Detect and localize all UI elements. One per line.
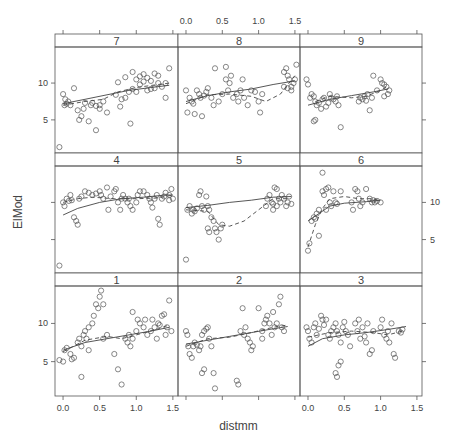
data-point (269, 332, 274, 337)
panel-5: 5 (178, 153, 300, 273)
data-point (212, 386, 217, 391)
data-point (305, 82, 310, 87)
data-point (362, 334, 367, 339)
data-point (348, 344, 353, 349)
data-point (319, 106, 324, 111)
data-point (245, 103, 250, 108)
x-tick-label-top: 0.0 (180, 16, 193, 26)
data-point (99, 288, 104, 293)
strip-label: 3 (358, 274, 364, 286)
y-tick-label-right: 5 (430, 235, 435, 245)
data-point (169, 329, 174, 334)
data-point (91, 313, 96, 318)
data-point (97, 106, 102, 111)
strip-label: 4 (113, 154, 119, 166)
data-point (294, 62, 299, 67)
data-point (183, 88, 188, 93)
y-tick-label-right: 10 (430, 197, 440, 207)
panel-frame (178, 47, 300, 153)
data-point (316, 326, 321, 331)
data-point (101, 302, 106, 307)
data-point (128, 344, 133, 349)
data-point (71, 86, 76, 91)
data-point (185, 110, 190, 115)
data-point (209, 95, 214, 100)
data-point (93, 103, 98, 108)
strip-label: 6 (358, 154, 364, 166)
strip-label: 1 (113, 274, 119, 286)
data-point (143, 317, 148, 322)
data-point (167, 66, 172, 71)
data-point (281, 329, 286, 334)
x-tick-label-top: 1.5 (289, 16, 302, 26)
data-point (350, 207, 355, 212)
data-point (211, 103, 216, 108)
data-point (227, 81, 232, 86)
data-point (216, 99, 221, 104)
fit-line-solid (186, 81, 295, 102)
panel-9: 9 (300, 34, 422, 153)
data-point (380, 317, 385, 322)
strip-label: 5 (236, 154, 242, 166)
data-point (123, 75, 128, 80)
data-point (137, 82, 142, 87)
y-axis-label: ElMod (11, 195, 25, 229)
data-point (104, 110, 109, 115)
data-point (163, 332, 168, 337)
x-tick-label-bottom: 1.5 (411, 403, 424, 413)
x-tick-label-bottom: 1.5 (167, 403, 180, 413)
data-point (81, 106, 86, 111)
data-point (316, 233, 321, 238)
data-point (130, 309, 135, 314)
panel-frame (55, 47, 178, 153)
y-tick-label-left: 10 (38, 78, 48, 88)
data-point (169, 186, 174, 191)
panel-frame (300, 166, 422, 273)
data-point (115, 80, 120, 85)
panel-frame (178, 166, 300, 273)
data-point (228, 73, 233, 78)
data-point (364, 340, 369, 345)
panels-group: 789456123 (55, 34, 422, 396)
data-point (338, 359, 343, 364)
x-tick-label-bottom: 0.0 (57, 403, 70, 413)
data-point (269, 200, 274, 205)
data-point (212, 66, 217, 71)
data-point (338, 189, 343, 194)
data-point (271, 309, 276, 314)
data-point (150, 317, 155, 322)
data-point (93, 302, 98, 307)
data-point (216, 237, 221, 242)
strip-label: 7 (113, 35, 119, 47)
data-point (205, 325, 210, 330)
fit-line-dashed (63, 83, 169, 105)
y-tick-label-left: 5 (43, 115, 48, 125)
data-point (336, 103, 341, 108)
data-point (211, 371, 216, 376)
data-point (199, 114, 204, 119)
data-point (157, 322, 162, 327)
data-point (320, 170, 325, 175)
x-axis-label: distmm (219, 419, 258, 433)
y-tick-label-left: 5 (43, 357, 48, 367)
data-point (240, 306, 245, 311)
x-tick-label-top: 0.5 (216, 16, 229, 26)
data-point (115, 367, 120, 372)
data-point (152, 86, 157, 91)
fit-line-solid (186, 197, 291, 208)
data-point (167, 298, 172, 303)
data-point (240, 77, 245, 82)
data-point (243, 325, 248, 330)
data-point (75, 108, 80, 113)
data-point (61, 92, 66, 97)
data-point (183, 257, 188, 262)
data-point (141, 325, 146, 330)
data-point (305, 248, 310, 253)
y-tick-label-left: 10 (38, 318, 48, 328)
data-point (245, 336, 250, 341)
data-point (118, 207, 123, 212)
data-point (156, 321, 161, 326)
data-point (96, 306, 101, 311)
data-point (324, 317, 329, 322)
panel-frame (55, 286, 178, 396)
